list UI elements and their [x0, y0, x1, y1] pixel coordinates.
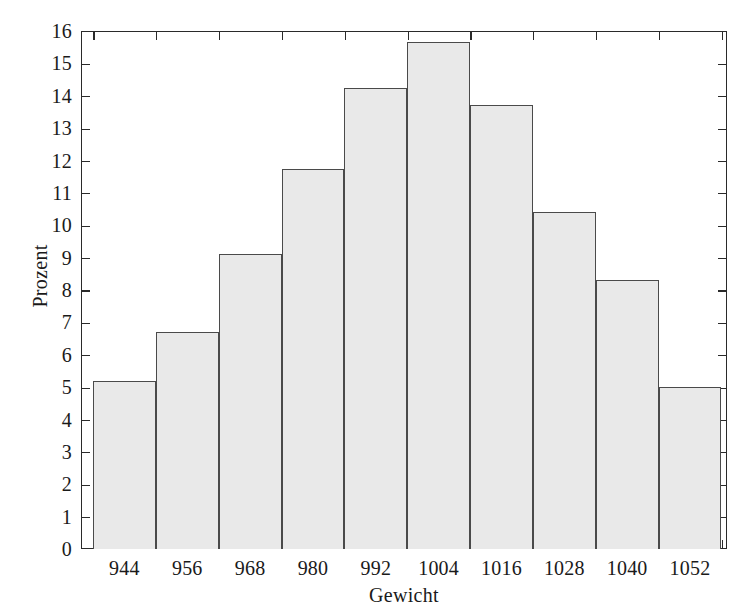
- x-axis-tick-top: [345, 32, 346, 40]
- y-axis-tick-right: [718, 452, 726, 453]
- x-axis-tick-top: [93, 32, 94, 40]
- y-axis-tick: [82, 323, 90, 324]
- x-axis-tick: [722, 540, 723, 548]
- x-axis-tick: [533, 540, 534, 548]
- x-axis-tick-labels: 94495696898099210041016102810401052: [81, 556, 727, 586]
- x-axis-tick: [219, 540, 220, 548]
- histogram-figure: Prozent 012345678910111213141516 9449569…: [0, 0, 737, 612]
- y-axis-tick: [82, 452, 90, 453]
- x-axis-tick-label: 968: [235, 556, 266, 580]
- y-axis-tick-label: 2: [22, 474, 72, 494]
- y-axis-tick: [82, 517, 90, 518]
- x-axis-tick-label: 1016: [481, 556, 522, 580]
- y-axis-tick-label: 15: [22, 53, 72, 73]
- plot-area: [81, 31, 727, 549]
- y-axis-tick-label: 7: [22, 312, 72, 332]
- y-axis-tick-label: 9: [22, 248, 72, 268]
- x-axis-tick-top: [156, 32, 157, 40]
- x-axis-tick-top: [408, 32, 409, 40]
- y-axis-tick-right: [718, 290, 726, 291]
- y-axis-tick-right: [718, 226, 726, 227]
- y-axis-tick-label: 13: [22, 118, 72, 138]
- y-axis-tick: [82, 355, 90, 356]
- x-axis-tick-top: [219, 32, 220, 40]
- y-axis-tick: [82, 485, 90, 486]
- y-axis-tick: [82, 64, 90, 65]
- y-axis-tick-label: 16: [22, 21, 72, 41]
- x-axis-tick-top: [533, 32, 534, 40]
- x-axis-tick-label: 1052: [670, 556, 711, 580]
- x-axis-tick: [345, 540, 346, 548]
- x-axis-tick-label: 944: [109, 556, 140, 580]
- y-axis-tick: [82, 129, 90, 130]
- y-axis-tick-right: [718, 258, 726, 259]
- y-axis-tick: [82, 193, 90, 194]
- x-axis-tick: [470, 540, 471, 548]
- y-axis-tick-right: [718, 161, 726, 162]
- x-axis-tick-top: [596, 32, 597, 40]
- x-axis-tick-label: 1040: [607, 556, 648, 580]
- y-axis-tick-label: 6: [22, 345, 72, 365]
- y-axis-tick-label: 11: [22, 183, 72, 203]
- y-axis-tick-label: 0: [22, 539, 72, 559]
- y-axis-tick-label: 5: [22, 377, 72, 397]
- y-axis-tick: [82, 290, 90, 291]
- x-axis-tick-label: 1028: [544, 556, 585, 580]
- x-axis-tick-top: [470, 32, 471, 40]
- y-axis-tick-right: [718, 485, 726, 486]
- y-axis-tick-right: [718, 193, 726, 194]
- x-axis-tick-label: 956: [172, 556, 203, 580]
- x-axis-tick: [659, 540, 660, 548]
- y-axis-tick-label: 8: [22, 280, 72, 300]
- y-axis-tick-label: 1: [22, 507, 72, 527]
- y-axis-tick: [82, 226, 90, 227]
- y-axis-tick-right: [718, 517, 726, 518]
- x-axis-tick-top: [659, 32, 660, 40]
- x-axis-tick-top: [722, 32, 723, 40]
- y-axis-tick-right: [718, 420, 726, 421]
- x-axis-tick: [596, 540, 597, 548]
- x-axis-title: Gewicht: [81, 583, 727, 607]
- y-axis-tick-label: 10: [22, 215, 72, 235]
- x-axis-tick: [156, 540, 157, 548]
- x-axis-tick-top: [282, 32, 283, 40]
- y-axis-tick: [82, 258, 90, 259]
- x-axis-tick: [282, 540, 283, 548]
- x-axis-tick-label: 1004: [418, 556, 459, 580]
- y-axis-tick-right: [718, 129, 726, 130]
- x-axis-tick: [93, 540, 94, 548]
- y-axis-tick-right: [718, 64, 726, 65]
- y-axis-tick-label: 14: [22, 86, 72, 106]
- y-axis-tick-label: 12: [22, 151, 72, 171]
- y-axis-tick: [82, 420, 90, 421]
- y-axis-tick-label: 3: [22, 442, 72, 462]
- y-axis-tick-right: [718, 388, 726, 389]
- y-axis-tick: [82, 388, 90, 389]
- y-axis-tick-right: [718, 355, 726, 356]
- y-axis-tick: [82, 161, 90, 162]
- y-axis-tick-right: [718, 96, 726, 97]
- x-axis-tick-label: 992: [360, 556, 391, 580]
- y-axis-tick-right: [718, 323, 726, 324]
- x-axis-tick-label: 980: [298, 556, 329, 580]
- x-axis-tick: [408, 540, 409, 548]
- y-axis-tick: [82, 96, 90, 97]
- y-axis-tick-label: 4: [22, 410, 72, 430]
